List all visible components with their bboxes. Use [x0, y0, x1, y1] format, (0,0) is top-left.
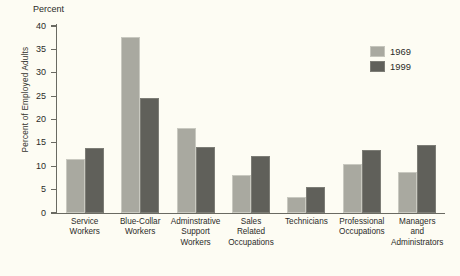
legend-label-1969: 1969	[390, 46, 411, 57]
x-axis-label-line: Related	[217, 227, 284, 237]
bar-1999-technicians	[306, 187, 325, 213]
y-axis-tick-label: 35	[22, 45, 46, 54]
x-axis-label-6: ManagersandAdministrators	[384, 217, 451, 248]
y-axis-unit-header: Percent	[33, 4, 64, 14]
legend-label-1999: 1999	[390, 61, 411, 72]
bar-1999-sales-related-occupations	[251, 156, 270, 213]
bar-1999-professional-occupations	[362, 150, 381, 213]
x-axis-label-line: Occupations	[217, 238, 284, 248]
x-axis-label-line: Managers	[384, 217, 451, 227]
bar-1969-blue-collar-workers	[121, 37, 140, 213]
bar-group	[223, 26, 278, 213]
legend-item-1999: 1999	[370, 60, 411, 73]
bar-1999-blue-collar-workers	[140, 98, 159, 213]
bar-1969-service-workers	[66, 159, 85, 213]
y-axis-tick-label: 10	[22, 162, 46, 171]
x-axis-label-line: and	[384, 227, 451, 237]
bar-1999-adminstrative-support-workers	[196, 147, 215, 213]
legend: 1969 1999	[370, 45, 411, 75]
legend-swatch-1999	[370, 61, 385, 72]
legend-item-1969: 1969	[370, 45, 411, 58]
y-axis-tick-label: 25	[22, 92, 46, 101]
bar-group	[279, 26, 334, 213]
bar-1999-service-workers	[85, 148, 104, 213]
bar-1969-managers-and-administrators	[398, 172, 417, 213]
bar-group	[168, 26, 223, 213]
bar-group	[112, 26, 167, 213]
y-axis-tick-label: 15	[22, 138, 46, 147]
y-axis-tick-label: 20	[22, 115, 46, 124]
y-axis-tick-label: 30	[22, 68, 46, 77]
bar-1969-adminstrative-support-workers	[177, 128, 196, 213]
y-axis-tick-label: 40	[22, 22, 46, 31]
x-axis-label-line: Administrators	[384, 238, 451, 248]
bar-1969-technicians	[287, 197, 306, 213]
bar-1969-professional-occupations	[343, 164, 362, 213]
legend-swatch-1969	[370, 46, 385, 57]
y-axis-tick-label: 5	[22, 185, 46, 194]
bar-1969-sales-related-occupations	[232, 175, 251, 213]
bar-group	[57, 26, 112, 213]
bar-1999-managers-and-administrators	[417, 145, 436, 213]
y-axis-tick-label: 0	[22, 209, 46, 218]
x-axis-category-labels: ServiceWorkersBlue-CollarWorkersAdminstr…	[57, 217, 445, 267]
bar-chart-figure: Percent Percent of Employed Adults 05101…	[0, 0, 460, 276]
